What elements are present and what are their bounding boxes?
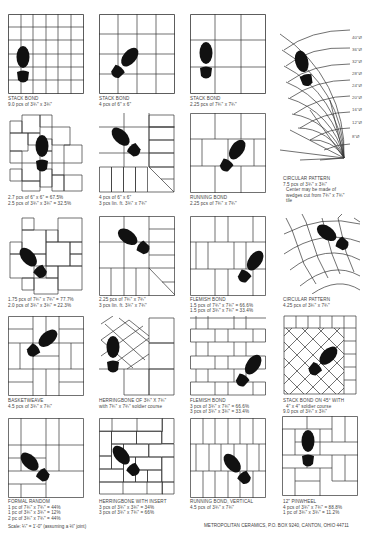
tile-diagram (282, 214, 360, 294)
caption: 2.25 pcs of 7¾" x 7¾" 3 pcs lin. ft. 3¾"… (99, 297, 147, 308)
pattern-circular-small (282, 214, 360, 294)
pattern-8x8-with-border (99, 216, 175, 296)
footprint-icon (235, 248, 266, 285)
tile-diagram (190, 216, 266, 296)
pattern-running-bond (190, 113, 266, 193)
pattern-random-8x8-3x3 (8, 216, 84, 296)
diameter-tick: 20"Ø (352, 95, 362, 100)
tile-diagram (99, 113, 175, 193)
pattern-herringbone-insert (99, 418, 175, 498)
pattern-stack-bond-3x3 (8, 14, 84, 94)
footprint-icon (220, 451, 253, 487)
footprint-icon (36, 135, 49, 172)
diameter-tick: 8"Ø (352, 134, 359, 139)
tile-diagram (8, 14, 84, 94)
caption: CIRCULAR PATTERN 7.5 pcs of 3¾" x 3¾" Ce… (283, 176, 344, 204)
pattern-basketweave (8, 316, 84, 396)
footprint-icon (115, 225, 152, 257)
pattern-random-6x6-3x3 (8, 113, 84, 193)
diameter-tick: 32"Ø (352, 59, 362, 64)
footprint-icon (233, 352, 265, 389)
caption: FLEMISH BOND 1.5 pcs of 7¾" x 7¾" = 66.6… (190, 297, 253, 314)
footprint-icon (306, 343, 341, 378)
diameter-tick: 24"Ø (352, 83, 362, 88)
caption: BASKETWEAVE 4.5 pcs of 3¾" x 7¾" (8, 398, 52, 409)
tile-diagram (8, 113, 84, 193)
caption: 4 pcs of 6" x 6" 3 pcs lin. ft. 3¾" x 7¾… (99, 195, 147, 206)
pattern-12-pinwheel (282, 416, 358, 496)
pattern-flemish-bond-a (190, 216, 266, 296)
tile-diagram (99, 14, 175, 94)
tile-diagram (282, 416, 358, 496)
diameter-tick: 12"Ø (352, 120, 362, 125)
caption: FORMAL RANDOM 1 pc of 7¾" x 7¾" = 44% 1 … (8, 499, 61, 521)
footprint-icon (217, 137, 249, 174)
caption: RUNNING BOND, VERTICAL 4.5 pcs of 3¾" x … (190, 499, 253, 510)
tile-diagram (280, 10, 352, 170)
tile-diagram (8, 316, 84, 396)
caption: HERRINGBONE of 3¾" x 7¾" with 7¾" x 7¾" … (99, 398, 166, 409)
footprint-icon (314, 221, 351, 253)
diameter-tick: 40"Ø (352, 35, 362, 40)
tile-diagram (190, 14, 266, 94)
footprint-icon (108, 124, 143, 159)
caption: STACK BOND ON 45° with 4" x 4" soldier c… (283, 398, 344, 415)
caption: 1.75 pcs of 7¾" x 7¾" = 77.7% 2.0 pcs of… (8, 297, 74, 308)
footprint-icon (16, 245, 49, 281)
footprint-icon (302, 430, 315, 467)
diameter-tick: 28"Ø (352, 71, 362, 76)
caption: CIRCULAR PATTERN 4.25 pcs of 3¾" x 7¾" (283, 297, 330, 308)
pattern-formal-random (8, 418, 84, 498)
pattern-stack-bond-6x6 (99, 14, 175, 94)
caption: 12" PINWHEEL 4 pcs of 3¾" x 7¾" = 88.8% … (283, 499, 342, 516)
pattern-6x6-with-border (99, 113, 175, 193)
tile-diagram (190, 418, 266, 498)
tile-diagram (99, 418, 175, 498)
tile-diagram (99, 316, 175, 396)
scale-note: Scale: ¼" = 1'-0" (assuming a ⅛" joint) (8, 524, 86, 529)
footprint-icon (17, 449, 52, 484)
footprint-icon (293, 49, 315, 88)
diameter-tick: 16"Ø (352, 107, 362, 112)
company-address: METROPOLITAN CERAMICS, P.O. BOX 9240, CA… (204, 523, 349, 528)
caption: STACK BOND 2.25 pcs of 7¾" x 7¾" (190, 96, 237, 107)
tile-diagram (282, 314, 358, 396)
diameter-tick: 36"Ø (352, 47, 362, 52)
pattern-herringbone-soldier (99, 316, 175, 396)
footprint-icon (200, 42, 213, 79)
footprint-icon (107, 336, 120, 373)
tile-diagram (99, 216, 175, 296)
caption: 2.7 pcs of 6" x 6" = 67.5% 2.5 pcs of 3¾… (8, 195, 71, 206)
pattern-running-bond-vertical (190, 418, 266, 498)
caption: STACK BOND 4 pcs of 6" x 6" (99, 96, 131, 107)
footprint-icon (109, 443, 142, 479)
pattern-stack-bond-45 (282, 314, 358, 396)
caption: FLEMISH BOND 3 pcs of 3¾" x 7¾" = 66.6% … (190, 398, 249, 415)
tile-diagram (8, 216, 84, 296)
pattern-stack-bond-8x8 (190, 14, 266, 94)
footprint-icon (17, 46, 30, 83)
tile-diagram (190, 316, 266, 396)
tile-diagram (190, 113, 266, 193)
pattern-flemish-bond-b (190, 316, 266, 396)
caption: HERRINGBONE with insert 3 pcs of 3¾" x 3… (99, 499, 167, 516)
pattern-circular-fan (280, 10, 352, 170)
tile-diagram (8, 418, 84, 498)
caption: RUNNING BOND 2.25 pcs of 7¾" x 7¾" (190, 195, 237, 206)
caption: STACK BOND 9.0 pcs of 3¾" x 3¾" (8, 96, 52, 107)
